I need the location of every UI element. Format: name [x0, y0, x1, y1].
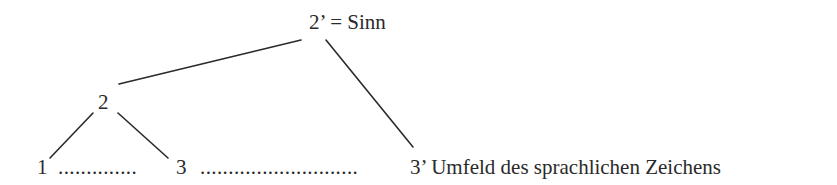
dots-3-to-3prime: ............................ — [200, 155, 358, 179]
node-sinn: 2’ = Sinn — [309, 10, 386, 34]
node-2: 2 — [98, 90, 109, 114]
edge-2-to-1 — [50, 113, 93, 158]
edge-2prime-to-3prime — [326, 40, 413, 147]
node-3: 3 — [176, 155, 187, 179]
node-1: 1 — [37, 155, 48, 179]
edge-2-to-2prime — [119, 40, 301, 84]
edge-2-to-3 — [118, 113, 168, 158]
node-3prime-umfeld: 3’ Umfeld des sprachlichen Zeichens — [410, 155, 721, 179]
dots-1-to-3: .............. — [58, 155, 137, 179]
